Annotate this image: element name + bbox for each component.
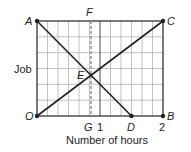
label-A: A xyxy=(24,15,32,27)
point-C xyxy=(161,19,165,23)
point-D xyxy=(129,114,133,118)
x-tick-2: 2 xyxy=(159,121,165,133)
point-A xyxy=(35,19,39,23)
y-axis-label: Job xyxy=(14,63,32,75)
label-B: B xyxy=(167,110,174,122)
label-D: D xyxy=(127,121,135,133)
x-axis-label: Number of hours xyxy=(66,134,148,146)
point-O xyxy=(35,114,39,118)
point-B xyxy=(161,114,165,118)
label-G: G xyxy=(84,121,93,133)
label-C: C xyxy=(167,15,175,27)
label-E: E xyxy=(77,69,85,81)
work-rate-diagram: A F C E O B G D 1 2 Job Number of hours xyxy=(0,0,191,152)
x-tick-1: 1 xyxy=(97,121,103,133)
label-F: F xyxy=(86,6,94,18)
label-O: O xyxy=(25,110,34,122)
